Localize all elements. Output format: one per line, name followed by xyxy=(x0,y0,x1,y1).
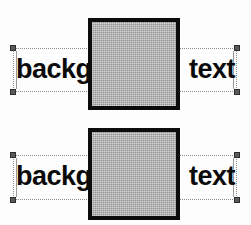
foreground-label-text[interactable]: text xyxy=(189,161,235,191)
background-label-text[interactable]: backg xyxy=(16,161,92,191)
selection-handle-top-right[interactable] xyxy=(234,45,240,51)
selection-handle-bottom-right[interactable] xyxy=(234,89,240,95)
selection-handle-bottom-right[interactable] xyxy=(234,197,240,203)
selection-handle-bottom-left[interactable] xyxy=(10,89,16,95)
illustration-canvas: backg text backg text xyxy=(0,0,251,225)
selection-handle-top-left[interactable] xyxy=(10,45,16,51)
gray-square-shape[interactable] xyxy=(88,128,180,220)
selection-handle-bottom-left[interactable] xyxy=(10,197,16,203)
foreground-label-text[interactable]: text xyxy=(189,54,235,84)
gray-square-shape[interactable] xyxy=(88,18,180,110)
selection-handle-top-right[interactable] xyxy=(234,152,240,158)
background-label-text[interactable]: backg xyxy=(16,54,92,84)
selection-handle-top-left[interactable] xyxy=(10,152,16,158)
